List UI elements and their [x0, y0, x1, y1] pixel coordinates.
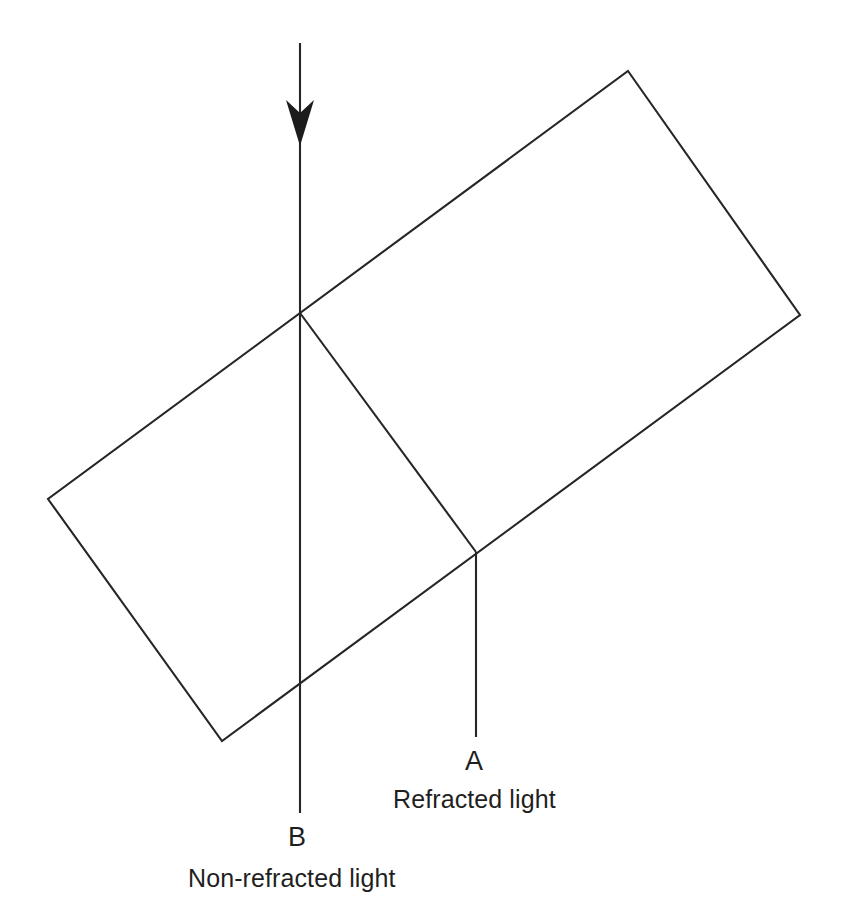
label-point-b: B [288, 824, 306, 851]
label-point-a: A [465, 748, 483, 775]
label-non-refracted-light: Non-refracted light [188, 866, 396, 891]
refracted-ray-inside-line [300, 313, 476, 552]
refraction-diagram: A B Refracted light Non-refracted light [0, 0, 843, 921]
glass-block-outline [48, 71, 800, 741]
label-refracted-light: Refracted light [393, 787, 556, 812]
diagram-canvas [0, 0, 843, 921]
